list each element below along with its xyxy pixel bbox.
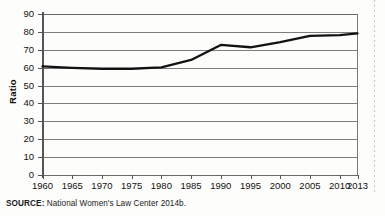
- figure-container: Ratio 0102030405060708090 19601965197019…: [0, 0, 385, 216]
- source-note: SOURCE: National Women's Law Center 2014…: [6, 199, 186, 208]
- page-edge-artifact: [374, 0, 375, 192]
- data-line-ratio: [43, 33, 358, 68]
- source-note-label: SOURCE:: [6, 199, 44, 208]
- line-chart: Ratio 0102030405060708090 19601965197019…: [0, 0, 385, 192]
- data-series-svg: [0, 0, 385, 192]
- source-note-text: National Women's Law Center 2014b.: [44, 199, 186, 208]
